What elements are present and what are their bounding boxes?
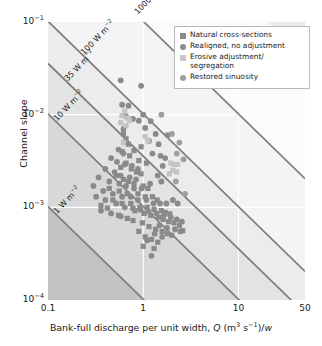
legend-label-line2: segregation bbox=[190, 62, 264, 71]
x-tick-label: 1 bbox=[128, 303, 158, 313]
legend-item: Natural cross-sections bbox=[179, 31, 305, 40]
legend-label: Erosive adjustment/segregation bbox=[190, 53, 264, 70]
x-axis-label-w: w bbox=[264, 322, 272, 333]
x-tick-label: 50 bbox=[290, 303, 320, 313]
x-axis-label-units-open: (m bbox=[220, 322, 236, 333]
legend-label: Realigned, no adjustment bbox=[190, 42, 285, 51]
power-line-label: 1000 W m−2 bbox=[133, 0, 174, 16]
power-line-label-text: 1000 W m bbox=[133, 0, 168, 16]
stream-power-scatter-figure: 1000 W m−2100 W m−235 W m−210 W m−21 W m… bbox=[0, 0, 322, 346]
legend-circle-marker-icon bbox=[180, 75, 186, 81]
y-tick-label: 10−1 bbox=[0, 16, 44, 26]
y-tick-exponent: −3 bbox=[34, 199, 44, 207]
legend-circle-marker-icon bbox=[180, 44, 186, 50]
legend-label: Restored sinuosity bbox=[190, 73, 258, 82]
x-tick-label: 10 bbox=[223, 303, 253, 313]
x-tick-label: 0.1 bbox=[33, 303, 63, 313]
y-axis-label: Channel slope bbox=[18, 79, 29, 189]
y-tick-exponent: −4 bbox=[34, 292, 44, 300]
legend-item: Erosive adjustment/segregation bbox=[179, 53, 305, 70]
legend: Natural cross-sectionsRealigned, no adju… bbox=[174, 26, 310, 89]
legend-item: Realigned, no adjustment bbox=[179, 42, 305, 51]
x-axis-label-s: s bbox=[240, 322, 248, 333]
y-tick-exponent: −1 bbox=[34, 14, 44, 22]
y-tick-exponent: −2 bbox=[34, 107, 44, 115]
y-tick-base: 10 bbox=[23, 201, 34, 211]
y-tick-base: 10 bbox=[23, 16, 34, 26]
legend-square-marker-icon bbox=[180, 55, 186, 61]
legend-label: Natural cross-sections bbox=[190, 31, 272, 40]
legend-item: Restored sinuosity bbox=[179, 73, 305, 82]
y-tick-label: 10−3 bbox=[0, 201, 44, 211]
x-axis-label-s-exponent: −1 bbox=[248, 321, 258, 329]
legend-square-marker-icon bbox=[180, 33, 186, 39]
x-axis-label-lead: Bank-full discharge per unit width, bbox=[50, 322, 213, 333]
x-axis-label: Bank-full discharge per unit width, Q (m… bbox=[0, 322, 322, 333]
